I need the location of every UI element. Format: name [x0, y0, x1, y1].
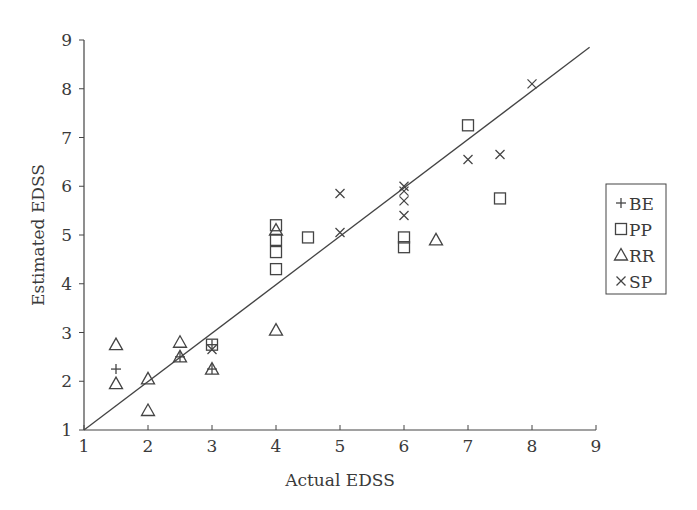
y-tick-label: 7: [61, 128, 72, 148]
y-tick-label: 3: [61, 323, 72, 343]
x-tick-label: 4: [271, 436, 282, 456]
legend-label-rr: RR: [629, 246, 656, 266]
point-sp: [336, 189, 345, 198]
point-rr: [270, 224, 283, 236]
point-rr: [430, 233, 443, 245]
y-tick-label: 9: [61, 30, 72, 50]
legend: BEPPRRSP: [606, 184, 666, 294]
reference-line: [84, 47, 590, 430]
point-pp: [271, 264, 282, 275]
point-rr: [270, 324, 283, 336]
point-pp: [495, 193, 506, 204]
y-tick-label: 1: [61, 420, 72, 440]
point-sp: [400, 211, 409, 220]
point-sp: [464, 155, 473, 164]
point-pp: [463, 120, 474, 131]
point-pp: [303, 232, 314, 243]
y-tick-label: 8: [61, 79, 72, 99]
point-pp: [271, 234, 282, 245]
point-sp: [400, 196, 409, 205]
x-tick-label: 1: [79, 436, 90, 456]
y-tick-label: 5: [61, 225, 72, 245]
point-rr: [110, 338, 123, 350]
x-tick-label: 7: [463, 436, 474, 456]
point-pp: [271, 220, 282, 231]
x-tick-label: 3: [207, 436, 218, 456]
legend-label-pp: PP: [629, 220, 652, 240]
x-tick-label: 9: [591, 436, 602, 456]
data-points: [110, 79, 537, 415]
y-tick-label: 6: [61, 176, 72, 196]
scatter-chart: 123456789123456789 Actual EDSS Estimated…: [0, 0, 697, 510]
y-tick-label: 2: [61, 371, 72, 391]
point-rr: [174, 336, 187, 348]
y-tick-label: 4: [61, 274, 72, 294]
x-tick-label: 8: [527, 436, 538, 456]
point-sp: [528, 79, 537, 88]
legend-label-be: BE: [629, 194, 654, 214]
x-tick-label: 2: [143, 436, 154, 456]
point-sp: [496, 150, 505, 159]
point-rr: [110, 377, 123, 389]
legend-label-sp: SP: [629, 272, 652, 292]
y-axis-label: Estimated EDSS: [28, 164, 48, 306]
x-axis-label: Actual EDSS: [284, 470, 395, 490]
point-pp: [271, 247, 282, 258]
point-be: [111, 364, 121, 374]
point-rr: [142, 404, 155, 416]
point-be: [207, 340, 217, 350]
x-tick-label: 5: [335, 436, 346, 456]
x-tick-label: 6: [399, 436, 410, 456]
point-sp: [400, 182, 409, 191]
